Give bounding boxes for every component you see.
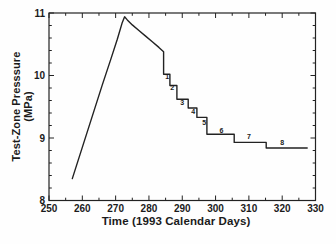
y-tick-label: 8 xyxy=(39,195,45,206)
step-label-1: 1 xyxy=(165,73,169,80)
pressure-chart: 2502602702802903003103203308910111234567… xyxy=(0,0,336,244)
y-tick-label: 11 xyxy=(34,8,45,19)
y-tick-label: 10 xyxy=(34,70,46,81)
y-axis-title: Test-Zone Presssure (MPa) xyxy=(10,37,23,177)
step-label-3: 3 xyxy=(180,99,184,106)
step-label-4: 4 xyxy=(191,108,195,115)
x-tick-label: 270 xyxy=(107,203,124,214)
y-tick-label: 9 xyxy=(39,133,45,144)
x-tick-label: 320 xyxy=(274,203,291,214)
step-label-2: 2 xyxy=(170,84,174,91)
pressure-curve xyxy=(72,17,307,179)
x-tick-label: 300 xyxy=(207,203,224,214)
step-label-6: 6 xyxy=(220,127,224,134)
x-axis-title: Time (1993 Calendar Days) xyxy=(40,215,312,227)
x-tick-label: 310 xyxy=(241,203,258,214)
step-label-5: 5 xyxy=(202,119,206,126)
figure: 2502602702802903003103203308910111234567… xyxy=(0,0,336,244)
x-tick-label: 280 xyxy=(141,203,158,214)
step-label-7: 7 xyxy=(247,133,251,140)
step-label-8: 8 xyxy=(280,139,284,146)
x-tick-label: 260 xyxy=(74,203,91,214)
x-tick-label: 330 xyxy=(307,203,324,214)
x-tick-label: 290 xyxy=(174,203,191,214)
plot-frame xyxy=(49,13,316,201)
